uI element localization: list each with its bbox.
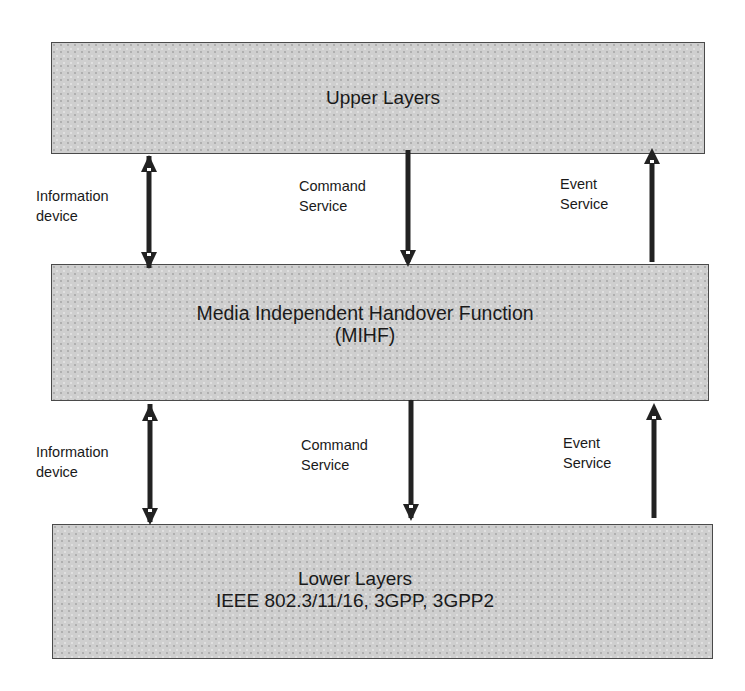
upper-information-line2: device bbox=[36, 206, 109, 226]
upper-event-label: Event Service bbox=[560, 174, 608, 214]
upper-event-arrow bbox=[644, 148, 660, 262]
upper-layers-label: Upper Layers bbox=[326, 87, 440, 109]
lower-command-line2: Service bbox=[301, 455, 368, 475]
upper-command-line1: Command bbox=[299, 176, 366, 196]
lower-information-line1: Information bbox=[36, 442, 109, 462]
upper-command-arrow bbox=[400, 150, 416, 267]
lower-information-line2: device bbox=[36, 462, 109, 482]
upper-event-line1: Event bbox=[560, 174, 608, 194]
lower-command-label: Command Service bbox=[301, 435, 368, 475]
lower-event-label: Event Service bbox=[563, 433, 611, 473]
lower-event-line1: Event bbox=[563, 433, 611, 453]
lower-command-line1: Command bbox=[301, 435, 368, 455]
upper-event-line2: Service bbox=[560, 194, 608, 214]
mihf-abbreviation: (MIHF) bbox=[196, 324, 533, 346]
upper-layers-title: Upper Layers bbox=[326, 87, 440, 109]
upper-command-line2: Service bbox=[299, 196, 366, 216]
lower-information-arrow bbox=[142, 404, 158, 525]
upper-layers-box: Upper Layers bbox=[51, 42, 705, 154]
lower-event-line2: Service bbox=[563, 453, 611, 473]
upper-command-label: Command Service bbox=[299, 176, 366, 216]
upper-information-line1: Information bbox=[36, 186, 109, 206]
lower-command-arrow bbox=[403, 400, 419, 521]
mihf-title: Media Independent Handover Function bbox=[196, 302, 533, 324]
lower-layers-label: Lower Layers IEEE 802.3/11/16, 3GPP, 3GP… bbox=[216, 568, 494, 612]
lower-layers-title: Lower Layers bbox=[216, 568, 494, 590]
mihf-label: Media Independent Handover Function (MIH… bbox=[196, 302, 533, 346]
lower-information-label: Information device bbox=[36, 442, 109, 482]
lower-event-arrow bbox=[646, 403, 662, 518]
lower-layers-standards: IEEE 802.3/11/16, 3GPP, 3GPP2 bbox=[216, 590, 494, 612]
upper-information-label: Information device bbox=[36, 186, 109, 226]
lower-layers-box: Lower Layers IEEE 802.3/11/16, 3GPP, 3GP… bbox=[52, 524, 713, 659]
mihf-box: Media Independent Handover Function (MIH… bbox=[51, 264, 709, 401]
upper-information-arrow bbox=[141, 155, 157, 269]
